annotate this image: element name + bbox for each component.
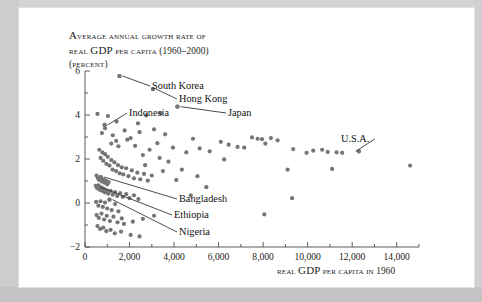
data-point[interactable]: [122, 222, 126, 226]
data-point[interactable]: [105, 214, 109, 218]
data-point[interactable]: [124, 192, 128, 196]
data-point[interactable]: [135, 171, 139, 175]
data-point[interactable]: [320, 148, 324, 152]
data-point[interactable]: [119, 230, 123, 234]
data-point[interactable]: [152, 214, 156, 218]
data-point[interactable]: [408, 164, 412, 168]
data-point[interactable]: [250, 135, 254, 139]
data-point[interactable]: [136, 121, 140, 125]
data-point[interactable]: [99, 211, 103, 215]
data-point[interactable]: [101, 205, 105, 209]
data-point[interactable]: [94, 200, 98, 204]
data-point[interactable]: [147, 148, 151, 152]
data-point[interactable]: [311, 149, 315, 153]
data-point[interactable]: [204, 185, 208, 189]
data-point[interactable]: [118, 171, 122, 175]
data-point[interactable]: [104, 229, 108, 233]
data-point[interactable]: [113, 202, 117, 206]
data-point[interactable]: [111, 215, 115, 219]
data-point-labeled[interactable]: [175, 105, 179, 109]
data-point[interactable]: [180, 167, 184, 171]
data-point[interactable]: [227, 143, 231, 147]
data-point[interactable]: [291, 147, 295, 151]
data-point[interactable]: [269, 136, 273, 140]
data-point[interactable]: [121, 172, 125, 176]
data-point[interactable]: [103, 200, 107, 204]
data-point[interactable]: [161, 169, 165, 173]
data-point[interactable]: [100, 131, 104, 135]
data-point[interactable]: [191, 137, 195, 141]
data-point[interactable]: [255, 137, 259, 141]
data-point[interactable]: [184, 150, 188, 154]
data-point[interactable]: [132, 176, 136, 180]
data-point[interactable]: [130, 168, 134, 172]
scatter-plot[interactable]: −2024602,0004,0006,0008,00010,00012,0001…: [19, 8, 474, 287]
data-point[interactable]: [262, 212, 266, 216]
data-point[interactable]: [335, 150, 339, 154]
data-point[interactable]: [219, 140, 223, 144]
data-point[interactable]: [141, 217, 145, 221]
data-point[interactable]: [290, 196, 294, 200]
data-point[interactable]: [107, 180, 111, 184]
data-point[interactable]: [171, 145, 175, 149]
data-point[interactable]: [114, 139, 118, 143]
data-point[interactable]: [115, 220, 119, 224]
data-point[interactable]: [330, 167, 334, 171]
data-point[interactable]: [138, 177, 142, 181]
data-point[interactable]: [286, 167, 290, 171]
data-point[interactable]: [150, 173, 154, 177]
data-point[interactable]: [111, 133, 115, 137]
data-point[interactable]: [120, 216, 124, 220]
data-point[interactable]: [260, 137, 264, 141]
data-point[interactable]: [137, 234, 141, 238]
data-point[interactable]: [107, 164, 111, 168]
data-point[interactable]: [146, 178, 150, 182]
data-point[interactable]: [101, 159, 105, 163]
data-point-labeled[interactable]: [102, 123, 106, 127]
data-point[interactable]: [113, 231, 117, 235]
data-point[interactable]: [340, 151, 344, 155]
data-point[interactable]: [157, 156, 161, 160]
data-point[interactable]: [137, 130, 141, 134]
data-point[interactable]: [109, 142, 113, 146]
data-point[interactable]: [198, 146, 202, 150]
data-point-labeled[interactable]: [99, 175, 103, 179]
data-point[interactable]: [116, 144, 120, 148]
data-point[interactable]: [120, 165, 124, 169]
data-point[interactable]: [242, 145, 246, 149]
data-point[interactable]: [276, 138, 280, 142]
data-point[interactable]: [106, 155, 110, 159]
data-point[interactable]: [133, 144, 137, 148]
data-point[interactable]: [123, 128, 127, 132]
data-point[interactable]: [116, 209, 120, 213]
data-point-labeled[interactable]: [117, 74, 121, 78]
data-point[interactable]: [143, 163, 147, 167]
data-point[interactable]: [106, 114, 110, 118]
data-point[interactable]: [131, 220, 135, 224]
data-point[interactable]: [222, 157, 226, 161]
data-point[interactable]: [102, 217, 106, 221]
data-point[interactable]: [208, 149, 212, 153]
data-point[interactable]: [326, 150, 330, 154]
data-point[interactable]: [142, 172, 146, 176]
data-point[interactable]: [116, 163, 120, 167]
data-point[interactable]: [136, 197, 140, 201]
data-point[interactable]: [105, 206, 109, 210]
data-point[interactable]: [163, 132, 167, 136]
data-point[interactable]: [124, 166, 128, 170]
data-point[interactable]: [132, 193, 136, 197]
data-point[interactable]: [235, 145, 239, 149]
data-point-labeled[interactable]: [95, 185, 99, 189]
data-point[interactable]: [155, 141, 159, 145]
data-point[interactable]: [195, 174, 199, 178]
data-point[interactable]: [98, 199, 102, 203]
data-point[interactable]: [304, 151, 308, 155]
data-point[interactable]: [109, 228, 113, 232]
data-point[interactable]: [101, 226, 105, 230]
data-point[interactable]: [95, 112, 99, 116]
data-point[interactable]: [108, 219, 112, 223]
data-point[interactable]: [152, 127, 156, 131]
data-point[interactable]: [114, 169, 118, 173]
data-point[interactable]: [125, 138, 129, 142]
data-point[interactable]: [97, 216, 101, 220]
